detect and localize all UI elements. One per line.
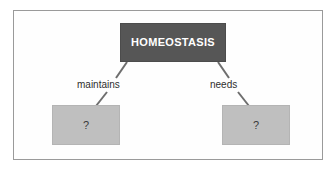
node-blank-right[interactable]: ? [222,105,290,145]
edge-label-maintains: maintains [77,80,120,90]
node-homeostasis-label: HOMEOSTASIS [131,37,215,48]
node-blank-right-label: ? [253,120,259,131]
node-homeostasis: HOMEOSTASIS [120,23,226,62]
node-blank-left[interactable]: ? [52,105,120,145]
node-blank-left-label: ? [83,120,89,131]
diagram-root: HOMEOSTASIS ? ? maintains needs [0,0,336,169]
edge-label-needs: needs [210,80,237,90]
